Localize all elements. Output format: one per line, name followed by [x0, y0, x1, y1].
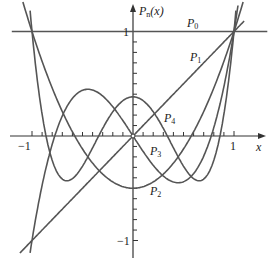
curve-label-p4: P4	[164, 112, 175, 126]
y-axis-label: Pn(x)	[139, 5, 164, 19]
y-axis-arrow-icon	[130, 4, 136, 12]
curve-p3	[30, 6, 238, 253]
x-tick-label-neg1: −1	[18, 140, 31, 152]
curve-label-p0: P0	[187, 17, 198, 31]
x-axis-arrow-icon	[258, 133, 266, 139]
x-tick-label-1: 1	[230, 140, 236, 152]
y-tick-label-neg1: −1	[117, 235, 130, 247]
curve-label-p1: P1	[190, 51, 201, 65]
curve-label-p2: P2	[150, 185, 161, 199]
curve-label-p3: P3	[150, 145, 161, 159]
legendre-plot	[0, 0, 271, 268]
y-tick-label-1: 1	[123, 26, 129, 38]
curves	[12, 2, 267, 253]
origin-marker	[131, 134, 135, 138]
x-axis-label: x	[256, 141, 261, 153]
